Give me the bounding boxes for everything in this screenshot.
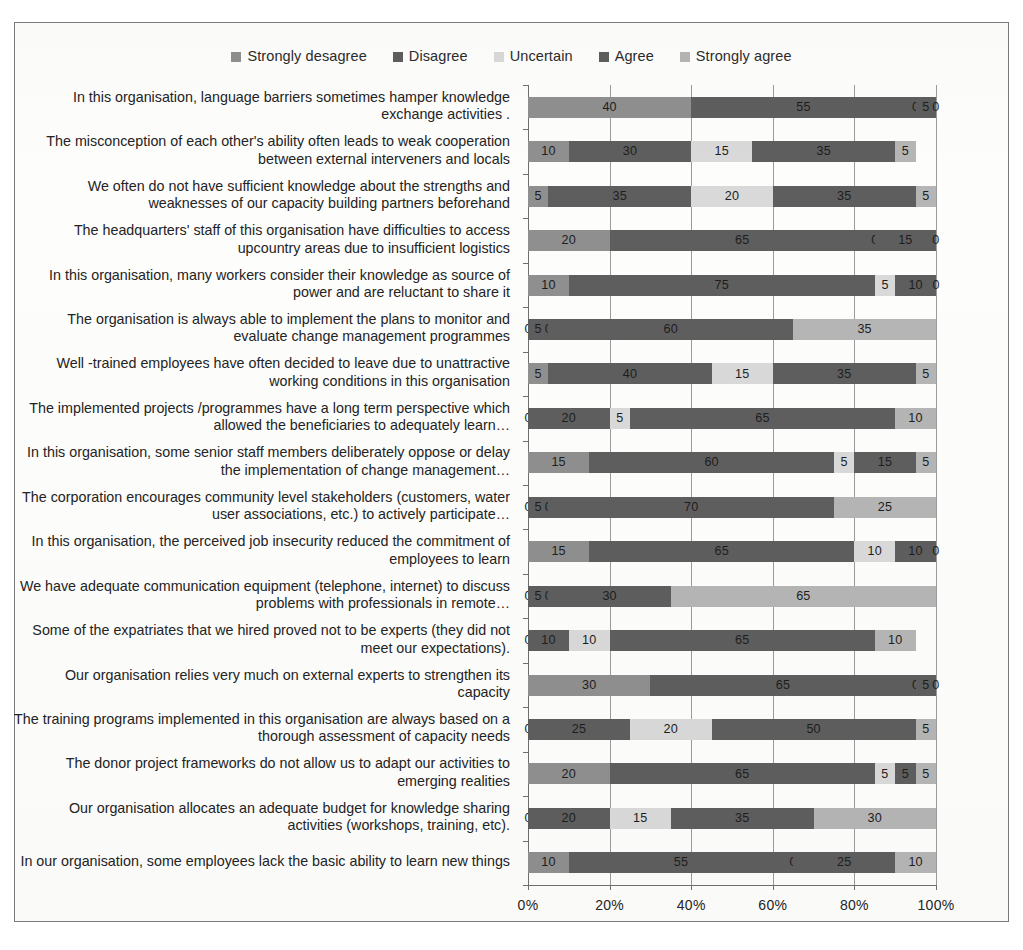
bar-row[interactable]: 010106510 (528, 630, 936, 651)
bar-segment[interactable]: 10 (854, 541, 895, 562)
bar-segment-value: 65 (715, 545, 729, 558)
bar-segment[interactable]: 30 (569, 141, 691, 162)
bar-row[interactable]: 10755100 (528, 275, 936, 296)
bar-segment[interactable]: 15 (712, 363, 773, 384)
bar-row[interactable]: 54015355 (528, 363, 936, 384)
bar-segment[interactable]: 10 (895, 408, 936, 429)
bar-row[interactable]: 020153530 (528, 808, 936, 829)
bar-row[interactable]: 53520355 (528, 186, 936, 207)
bar-segment[interactable]: 15 (528, 452, 589, 473)
bar-segment[interactable]: 20 (528, 408, 610, 429)
bar-segment[interactable]: 65 (589, 541, 854, 562)
bar-segment[interactable]: 35 (671, 808, 814, 829)
bar-segment[interactable]: 5 (875, 275, 895, 296)
bar-segment[interactable]: 35 (793, 319, 936, 340)
bar-segment[interactable]: 10 (895, 852, 936, 873)
bar-segment[interactable]: 65 (610, 230, 875, 251)
bar-segment[interactable]: 40 (548, 363, 711, 384)
bar-segment[interactable]: 20 (630, 719, 712, 740)
bar-segment[interactable]: 35 (773, 363, 916, 384)
bar-segment[interactable]: 10 (528, 141, 569, 162)
bar-segment[interactable]: 5 (916, 452, 936, 473)
bar-segment[interactable]: 5 (610, 408, 630, 429)
legend-item[interactable]: Strongly desagree (231, 48, 366, 64)
bar-row[interactable]: 156510100 (528, 541, 936, 562)
bar-segment[interactable]: 35 (773, 186, 916, 207)
bar-segment[interactable]: 10 (528, 275, 569, 296)
bar-segment-value: 25 (572, 723, 586, 736)
bar-segment[interactable]: 5 (895, 141, 915, 162)
bar-segment[interactable]: 35 (752, 141, 895, 162)
legend-item[interactable]: Uncertain (494, 48, 573, 64)
bar-row[interactable]: 0507025 (528, 497, 936, 518)
legend-item[interactable]: Disagree (393, 48, 468, 64)
bar-row[interactable]: 02056510 (528, 408, 936, 429)
bar-segment[interactable]: 10 (528, 852, 569, 873)
bar-row[interactable]: 105502510 (528, 852, 936, 873)
bar-row[interactable]: 0506035 (528, 319, 936, 340)
bar-row[interactable]: 02520505 (528, 719, 936, 740)
bar-segment[interactable]: 15 (875, 230, 936, 251)
bar-segment[interactable]: 5 (528, 363, 548, 384)
bar-segment[interactable]: 75 (569, 275, 875, 296)
bar-segment[interactable]: 35 (548, 186, 691, 207)
bar-segment[interactable]: 5 (528, 186, 548, 207)
legend-item[interactable]: Strongly agree (680, 48, 792, 64)
bar-segment[interactable]: 30 (548, 586, 670, 607)
bar-segment[interactable]: 10 (895, 541, 936, 562)
bar-segment-value: 65 (735, 768, 749, 781)
bar-segment[interactable]: 60 (548, 319, 793, 340)
bar-segment[interactable]: 25 (834, 497, 936, 518)
bar-segment[interactable]: 30 (814, 808, 936, 829)
bar-row[interactable]: 4055050 (528, 97, 936, 118)
bar-segment-value: 65 (735, 234, 749, 247)
bar-segment[interactable]: 65 (610, 630, 875, 651)
y-tick-mark (523, 752, 528, 753)
bar-segment[interactable]: 15 (610, 808, 671, 829)
bar-segment[interactable]: 5 (875, 763, 895, 784)
bar-segment[interactable]: 60 (589, 452, 834, 473)
y-tick-mark (523, 85, 528, 86)
bar-row[interactable]: 0503065 (528, 586, 936, 607)
bar-segment[interactable]: 50 (712, 719, 916, 740)
bar-segment[interactable]: 30 (528, 675, 650, 696)
category-label: The organisation is always able to imple… (11, 311, 510, 346)
bar-segment-value: 5 (616, 412, 623, 425)
bar-segment[interactable]: 15 (691, 141, 752, 162)
bar-segment[interactable]: 25 (793, 852, 895, 873)
bar-row[interactable]: 103015355 (528, 141, 936, 162)
bar-segment[interactable]: 5 (895, 763, 915, 784)
bar-segment[interactable]: 10 (875, 630, 916, 651)
bar-segment[interactable]: 20 (691, 186, 773, 207)
bar-segment[interactable]: 10 (895, 275, 936, 296)
bar-segment[interactable]: 20 (528, 808, 610, 829)
bar-segment-value: 35 (613, 190, 627, 203)
bar-segment[interactable]: 25 (528, 719, 630, 740)
bar-segment[interactable]: 5 (916, 719, 936, 740)
bar-segment-value: 10 (541, 279, 555, 292)
bar-segment[interactable]: 5 (916, 186, 936, 207)
bar-segment[interactable]: 65 (671, 586, 936, 607)
bar-segment[interactable]: 65 (630, 408, 895, 429)
bar-segment[interactable]: 65 (610, 763, 875, 784)
bar-segment[interactable]: 15 (528, 541, 589, 562)
bar-segment[interactable]: 55 (569, 852, 793, 873)
bar-segment[interactable]: 65 (650, 675, 915, 696)
bar-segment[interactable]: 10 (569, 630, 610, 651)
bar-segment[interactable]: 20 (528, 230, 610, 251)
bar-segment[interactable]: 10 (528, 630, 569, 651)
bar-segment[interactable]: 15 (854, 452, 915, 473)
x-axis-line (528, 885, 936, 886)
bar-row[interactable]: 3065050 (528, 675, 936, 696)
bar-row[interactable]: 15605155 (528, 452, 936, 473)
legend-item[interactable]: Agree (599, 48, 654, 64)
bar-segment[interactable]: 5 (916, 763, 936, 784)
bar-row[interactable]: 2065555 (528, 763, 936, 784)
bar-segment[interactable]: 70 (548, 497, 834, 518)
bar-segment[interactable]: 20 (528, 763, 610, 784)
bar-row[interactable]: 20650150 (528, 230, 936, 251)
bar-segment[interactable]: 5 (916, 363, 936, 384)
bar-segment[interactable]: 40 (528, 97, 691, 118)
bar-segment[interactable]: 5 (834, 452, 854, 473)
bar-segment[interactable]: 55 (691, 97, 915, 118)
